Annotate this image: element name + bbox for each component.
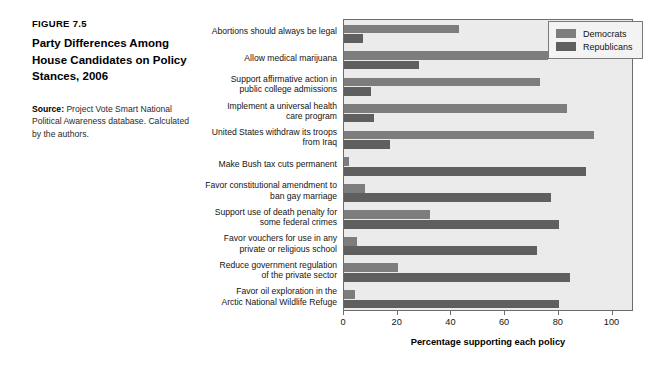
bar-republicans: [344, 220, 559, 229]
x-axis-tick-label: 0: [323, 317, 363, 327]
category-label: Make Bush tax cuts permanent: [137, 159, 337, 169]
legend-item: Republicans: [556, 40, 633, 53]
x-axis-tick-label: 80: [538, 317, 578, 327]
chart-category-row: [344, 259, 632, 286]
category-label: Abortions should always be legal: [137, 26, 337, 36]
bar-democrats: [344, 263, 398, 272]
x-axis-tick-label: 100: [592, 317, 632, 327]
bar-democrats: [344, 184, 365, 193]
category-label: Favor oil exploration in the Arctic Nati…: [137, 286, 337, 307]
legend-swatch-republicans: [556, 42, 576, 51]
bar-democrats: [344, 51, 548, 60]
x-axis-tick: [343, 311, 344, 315]
chart-category-row: [344, 179, 632, 206]
bar-democrats: [344, 78, 540, 87]
x-axis-tick: [612, 311, 613, 315]
bar-democrats: [344, 104, 567, 113]
chart-category-row: [344, 126, 632, 153]
chart-category-row: [344, 100, 632, 127]
bar-republicans: [344, 167, 586, 176]
x-axis-tick-label: 20: [377, 317, 417, 327]
chart-category-row: [344, 285, 632, 312]
bar-democrats: [344, 290, 355, 299]
category-label: Implement a universal health care progra…: [137, 101, 337, 122]
category-label: Favor vouchers for use in any private or…: [137, 233, 337, 254]
bar-republicans: [344, 193, 551, 202]
bar-democrats: [344, 157, 349, 166]
plot-inner: [344, 20, 632, 310]
x-axis-tick: [558, 311, 559, 315]
chart-category-row: [344, 73, 632, 100]
legend-item: Democrats: [556, 27, 633, 40]
bar-democrats: [344, 210, 430, 219]
bar-republicans: [344, 114, 374, 123]
bar-republicans: [344, 34, 363, 43]
category-label: Favor constitutional amendment to ban ga…: [137, 180, 337, 201]
bar-democrats: [344, 131, 594, 140]
bar-republicans: [344, 87, 371, 96]
category-label: United States withdraw its troops from I…: [137, 127, 337, 148]
bar-republicans: [344, 61, 419, 70]
legend-label: Democrats: [583, 29, 627, 39]
bar-republicans: [344, 300, 559, 309]
chart-legend: DemocratsRepublicans: [548, 21, 643, 59]
bar-democrats: [344, 237, 357, 246]
x-axis-title: Percentage supporting each policy: [343, 337, 633, 347]
x-axis-tick: [397, 311, 398, 315]
chart-container: 020406080100 Percentage supporting each …: [0, 0, 663, 366]
x-axis-tick-label: 40: [430, 317, 470, 327]
x-axis-tick-label: 60: [484, 317, 524, 327]
chart-category-row: [344, 232, 632, 259]
bar-republicans: [344, 273, 570, 282]
category-label: Support affirmative action in public col…: [137, 74, 337, 95]
chart-category-row: [344, 206, 632, 233]
legend-swatch-democrats: [556, 29, 576, 38]
category-label: Support use of death penalty for some fe…: [137, 207, 337, 228]
bar-republicans: [344, 140, 390, 149]
chart-category-row: [344, 153, 632, 180]
category-label: Reduce government regulation of the priv…: [137, 260, 337, 281]
x-axis-tick: [504, 311, 505, 315]
category-label: Allow medical marijuana: [137, 53, 337, 63]
x-axis-tick: [450, 311, 451, 315]
legend-label: Republicans: [583, 42, 633, 52]
bar-democrats: [344, 25, 459, 34]
plot-area: [343, 19, 633, 311]
bar-republicans: [344, 246, 537, 255]
